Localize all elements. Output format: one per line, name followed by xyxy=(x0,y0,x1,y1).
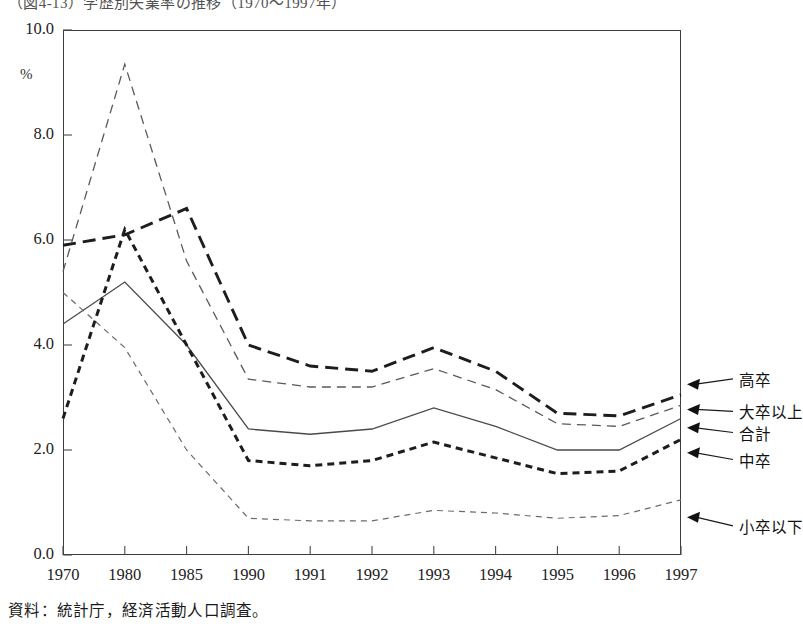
data-series-group xyxy=(63,64,681,521)
source-caption: 資料：統計庁，経済活動人口調査。 xyxy=(8,598,269,620)
x-axis-tick-label: 1994 xyxy=(464,565,528,585)
x-axis-tick-label: 1985 xyxy=(155,565,219,585)
y-axis-tick-label: 8.0 xyxy=(8,124,54,144)
chart-area: % 0.02.04.06.08.010.0 197019801985199019… xyxy=(0,18,800,588)
series-line-高卒 xyxy=(63,209,681,416)
series-label-合計: 合計 xyxy=(739,422,771,444)
x-axis-tick-label: 1993 xyxy=(402,565,466,585)
arrowhead-合計 xyxy=(687,422,700,433)
figure-title: （図4-13）学歴別失業率の推移（1970～1997年） xyxy=(8,0,347,12)
y-axis-tick-label: 10.0 xyxy=(8,19,54,39)
x-axis-tick-label: 1980 xyxy=(93,565,157,585)
series-label-中卒: 中卒 xyxy=(739,449,771,471)
series-line-小卒以下 xyxy=(63,293,681,521)
arrowhead-高卒 xyxy=(687,379,700,390)
x-axis-tick-label: 1995 xyxy=(525,565,589,585)
y-axis-tick-label: 2.0 xyxy=(8,439,54,459)
series-label-大卒以上: 大卒以上 xyxy=(739,400,803,422)
x-axis-tick-label: 1990 xyxy=(216,565,280,585)
axis-ticks xyxy=(63,30,681,555)
x-axis-tick-label: 1992 xyxy=(340,565,404,585)
y-axis-tick-label: 6.0 xyxy=(8,229,54,249)
arrowhead-大卒以上 xyxy=(687,404,700,415)
arrowhead-小卒以下 xyxy=(687,512,700,523)
arrowhead-中卒 xyxy=(687,447,700,458)
series-label-高卒: 高卒 xyxy=(739,368,771,390)
x-axis-tick-label: 1996 xyxy=(587,565,651,585)
x-axis-tick-label: 1991 xyxy=(278,565,342,585)
series-label-小卒以下: 小卒以下 xyxy=(739,515,803,537)
x-axis-tick-label: 1970 xyxy=(31,565,95,585)
y-axis-tick-label: 0.0 xyxy=(8,544,54,564)
x-axis-tick-label: 1997 xyxy=(649,565,713,585)
label-leader-arrows xyxy=(687,379,733,526)
series-line-中卒 xyxy=(63,230,681,474)
y-axis-tick-label: 4.0 xyxy=(8,334,54,354)
series-line-合計 xyxy=(63,282,681,450)
chart-plot-svg xyxy=(0,18,800,588)
